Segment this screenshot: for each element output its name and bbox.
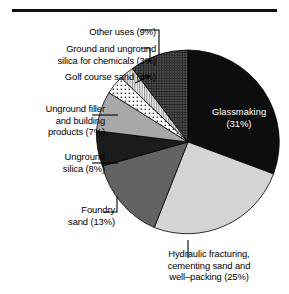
label-glassmaking: Glassmaking (31%) (196, 106, 282, 129)
label-hydraulic-fracturing: Hydraulic fracturing, cementing sand and… (133, 248, 285, 283)
pie-chart-figure: Other uses (9%) Ground and unground sili… (0, 0, 289, 294)
label-foundry-sand: Foundry sand (13%) (68, 204, 115, 227)
label-golf-course-sand: Golf course sand (4%) (65, 71, 156, 83)
label-silica-for-chemicals: Ground and unground silica for chemicals… (57, 43, 156, 66)
label-other-uses: Other uses (9%) (89, 26, 156, 38)
label-unground-filler: Unground filler and building products (7… (46, 103, 105, 138)
label-unground-silica: Unground silica (8%) (63, 151, 105, 174)
